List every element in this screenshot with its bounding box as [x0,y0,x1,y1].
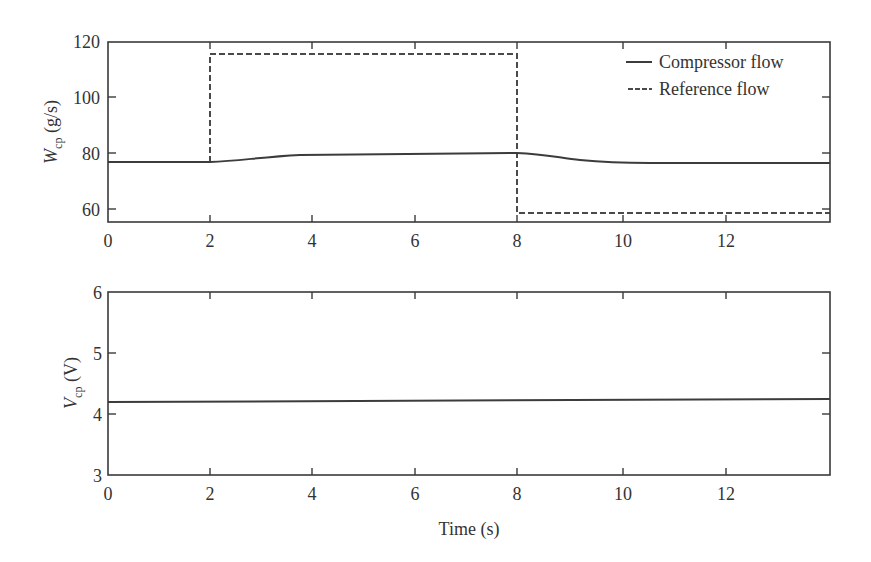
legend: Compressor flow Reference flow [626,52,784,99]
x-tick-label: 2 [206,231,215,251]
y-tick-label: 80 [82,144,100,164]
x-tick-label: 6 [411,484,420,504]
x-tick-label: 0 [104,484,113,504]
top-plot: 120 100 80 60 0 2 4 6 8 10 12 Wcp (g/s) … [41,32,830,251]
y-tick-label: 6 [93,283,102,303]
bottom-plot-frame [108,292,830,475]
x-tick-label: 4 [308,484,317,504]
figure: 120 100 80 60 0 2 4 6 8 10 12 Wcp (g/s) … [0,0,871,562]
bottom-plot: 6 5 4 3 0 2 4 6 8 10 12 Vcp (V) Time (s) [61,283,830,540]
bottom-x-ticks [210,292,726,475]
y-tick-label: 4 [93,405,102,425]
x-tick-label: 4 [308,231,317,251]
x-tick-label: 12 [717,231,735,251]
legend-reference-label: Reference flow [659,79,769,99]
bottom-y-ticks [108,353,830,414]
y-tick-label: 5 [93,344,102,364]
compressor-voltage-line [108,399,830,402]
x-tick-label: 8 [513,484,522,504]
legend-compressor-label: Compressor flow [659,52,784,72]
top-x-ticks [210,42,726,222]
top-y-axis-label: Wcp (g/s) [41,100,65,164]
bottom-y-axis-label: Vcp (V) [61,357,85,409]
x-tick-label: 0 [104,231,113,251]
x-tick-label: 2 [206,484,215,504]
x-tick-label: 8 [513,231,522,251]
y-tick-label: 3 [93,466,102,486]
x-tick-label: 10 [614,231,632,251]
x-axis-label: Time (s) [439,519,500,540]
compressor-flow-line [108,153,830,163]
bottom-y-tick-labels: 6 5 4 3 [93,283,102,486]
y-tick-label: 60 [82,200,100,220]
y-tick-label: 120 [73,32,100,52]
y-tick-label: 100 [73,88,100,108]
x-tick-label: 10 [614,484,632,504]
top-y-tick-labels: 120 100 80 60 [73,32,100,220]
bottom-x-tick-labels: 0 2 4 6 8 10 12 [104,484,736,504]
reference-flow-line [108,54,830,213]
x-tick-label: 12 [717,484,735,504]
x-tick-label: 6 [411,231,420,251]
top-x-tick-labels: 0 2 4 6 8 10 12 [104,231,736,251]
